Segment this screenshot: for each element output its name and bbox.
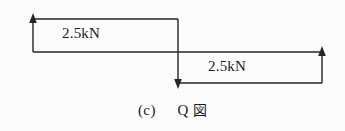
left-value-label: 2.5kN — [62, 25, 100, 42]
shear-force-diagram — [0, 0, 345, 100]
figure-caption: (c) Q 図 — [0, 99, 345, 119]
right-up-arrowhead — [318, 46, 326, 56]
caption-symbol: Q — [178, 102, 190, 118]
midspan-down-arrowhead — [174, 79, 182, 89]
shear-force-figure: 2.5kN 2.5kN (c) Q 図 — [0, 0, 345, 131]
caption-kanji: 図 — [193, 102, 207, 118]
left-up-arrowhead — [29, 13, 37, 23]
caption-index: (c) — [138, 102, 156, 118]
right-value-label: 2.5kN — [208, 58, 246, 75]
